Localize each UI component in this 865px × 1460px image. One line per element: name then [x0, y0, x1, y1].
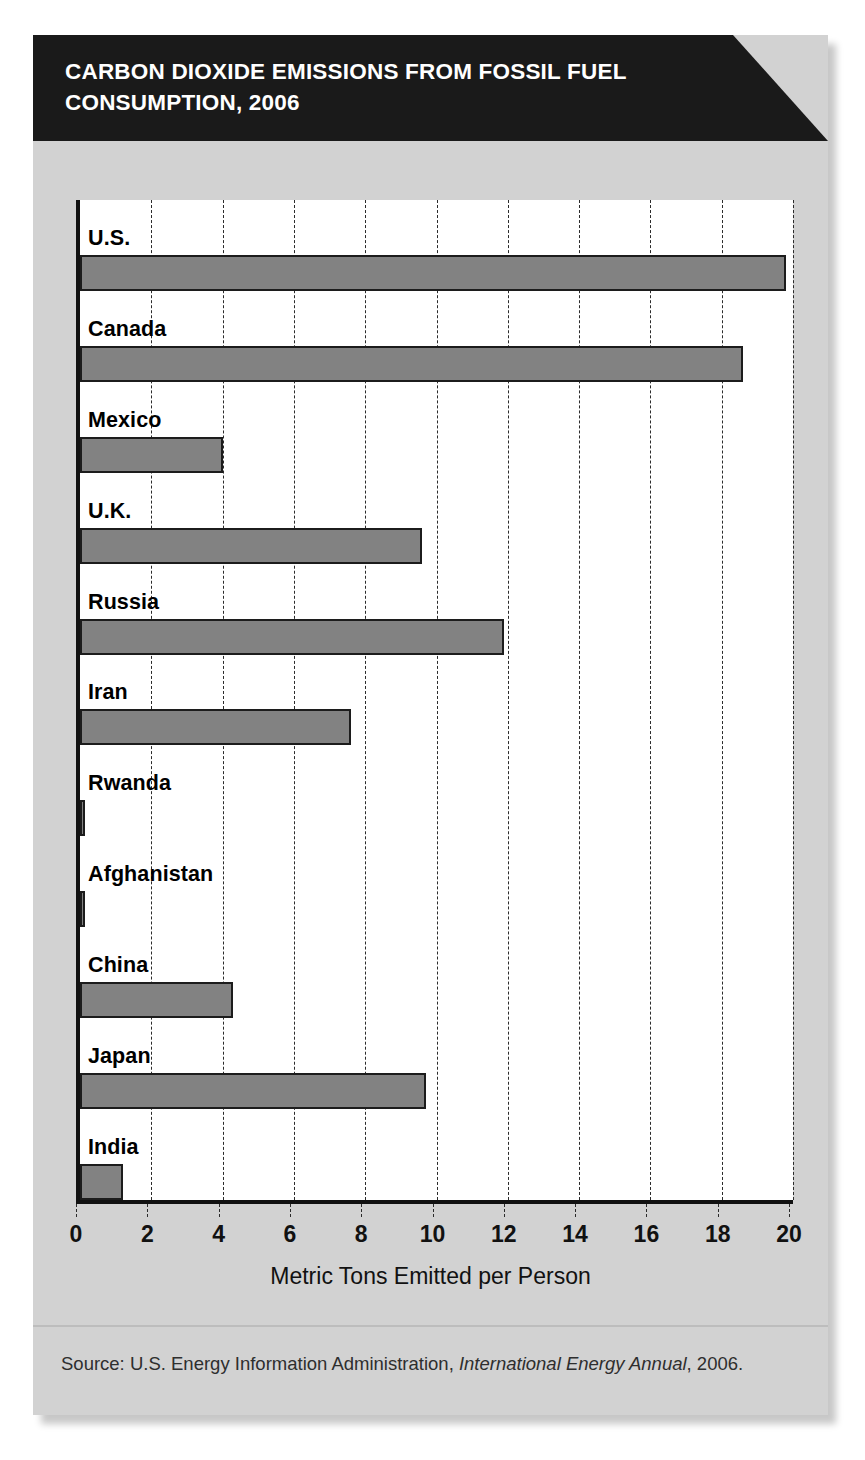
tick-label-4: 4 — [212, 1221, 225, 1248]
x-axis-line — [76, 1200, 793, 1204]
tick-14 — [575, 1204, 576, 1217]
figure-card: CARBON DIOXIDE EMISSIONS FROM FOSSIL FUE… — [33, 35, 828, 1415]
bar-row: U.S. — [80, 200, 793, 291]
bar-label-india: India — [88, 1135, 139, 1160]
tick-10 — [433, 1204, 434, 1217]
bar-russia — [80, 619, 504, 655]
bar-afghanistan — [80, 891, 85, 927]
tick-0 — [76, 1204, 77, 1217]
bar-label-japan: Japan — [88, 1044, 151, 1069]
tick-8 — [361, 1204, 362, 1217]
bar-label-china: China — [88, 953, 148, 978]
bar-row: Iran — [80, 655, 793, 746]
bar-label-u-s: U.S. — [88, 226, 130, 251]
bar-label-russia: Russia — [88, 590, 159, 615]
tick-label-2: 2 — [141, 1221, 154, 1248]
bar-row: Rwanda — [80, 745, 793, 836]
bar-row: U.K. — [80, 473, 793, 564]
tick-16 — [646, 1204, 647, 1217]
tick-label-20: 20 — [776, 1221, 802, 1248]
tick-4 — [219, 1204, 220, 1217]
bar-row: China — [80, 927, 793, 1018]
bar-label-mexico: Mexico — [88, 408, 162, 433]
bar-rwanda — [80, 800, 85, 836]
tick-label-18: 18 — [705, 1221, 731, 1248]
bar-label-rwanda: Rwanda — [88, 771, 171, 796]
source-suffix: , 2006. — [687, 1353, 744, 1374]
tick-12 — [504, 1204, 505, 1217]
bar-u-s — [80, 255, 786, 291]
bar-japan — [80, 1073, 426, 1109]
bar-row: Japan — [80, 1018, 793, 1109]
tick-label-16: 16 — [634, 1221, 660, 1248]
tick-label-0: 0 — [70, 1221, 83, 1248]
tick-label-12: 12 — [491, 1221, 517, 1248]
tick-label-10: 10 — [420, 1221, 446, 1248]
tick-label-14: 14 — [562, 1221, 588, 1248]
bar-label-u-k: U.K. — [88, 499, 131, 524]
chart-title: CARBON DIOXIDE EMISSIONS FROM FOSSIL FUE… — [65, 57, 665, 118]
tick-2 — [147, 1204, 148, 1217]
tick-6 — [290, 1204, 291, 1217]
tick-18 — [718, 1204, 719, 1217]
bar-label-afghanistan: Afghanistan — [88, 862, 213, 887]
bar-row: Mexico — [80, 382, 793, 473]
source-note: Source: U.S. Energy Information Administ… — [61, 1353, 743, 1375]
bar-iran — [80, 709, 351, 745]
bar-label-canada: Canada — [88, 317, 166, 342]
tick-label-8: 8 — [355, 1221, 368, 1248]
bar-row: India — [80, 1109, 793, 1200]
source-prefix: Source: U.S. Energy Information Administ… — [61, 1353, 454, 1374]
bar-row: Russia — [80, 564, 793, 655]
tick-20 — [789, 1204, 790, 1217]
bar-label-iran: Iran — [88, 680, 128, 705]
gridline-20 — [793, 200, 794, 1200]
plot-wrapper: U.S.CanadaMexicoU.K.RussiaIranRwandaAfgh… — [76, 200, 789, 1200]
plot-area: U.S.CanadaMexicoU.K.RussiaIranRwandaAfgh… — [76, 200, 793, 1200]
bar-mexico — [80, 437, 223, 473]
x-axis-title: Metric Tons Emitted per Person — [33, 1263, 828, 1290]
tick-label-6: 6 — [283, 1221, 296, 1248]
source-divider — [33, 1325, 828, 1327]
bar-u-k — [80, 528, 422, 564]
bar-india — [80, 1164, 123, 1200]
bar-row: Canada — [80, 291, 793, 382]
source-publication: International Energy Annual — [459, 1353, 687, 1374]
bar-china — [80, 982, 233, 1018]
bar-row: Afghanistan — [80, 836, 793, 927]
bar-canada — [80, 346, 743, 382]
